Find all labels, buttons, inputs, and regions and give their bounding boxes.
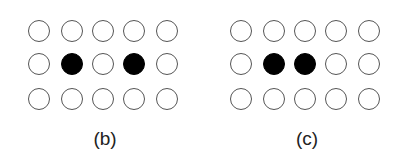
empty-circle bbox=[263, 20, 285, 42]
empty-circle bbox=[61, 20, 83, 42]
empty-circle bbox=[92, 53, 114, 75]
panel-b: (b) bbox=[0, 0, 202, 168]
empty-circle bbox=[325, 20, 347, 42]
empty-circle bbox=[28, 53, 50, 75]
empty-circle bbox=[358, 88, 380, 110]
panel-c: (c) bbox=[202, 0, 404, 168]
panel-label: (b) bbox=[75, 128, 135, 150]
empty-circle bbox=[294, 20, 316, 42]
empty-circle bbox=[358, 20, 380, 42]
empty-circle bbox=[92, 20, 114, 42]
empty-circle bbox=[28, 88, 50, 110]
filled-circle bbox=[61, 53, 83, 75]
empty-circle bbox=[230, 88, 252, 110]
empty-circle bbox=[230, 53, 252, 75]
empty-circle bbox=[28, 20, 50, 42]
empty-circle bbox=[325, 88, 347, 110]
panel-label: (c) bbox=[277, 128, 337, 150]
empty-circle bbox=[156, 20, 178, 42]
filled-circle bbox=[294, 53, 316, 75]
filled-circle bbox=[123, 53, 145, 75]
empty-circle bbox=[123, 20, 145, 42]
empty-circle bbox=[263, 88, 285, 110]
empty-circle bbox=[230, 20, 252, 42]
empty-circle bbox=[294, 88, 316, 110]
empty-circle bbox=[325, 53, 347, 75]
filled-circle bbox=[263, 53, 285, 75]
empty-circle bbox=[123, 88, 145, 110]
empty-circle bbox=[156, 53, 178, 75]
empty-circle bbox=[61, 88, 83, 110]
empty-circle bbox=[92, 88, 114, 110]
empty-circle bbox=[156, 88, 178, 110]
empty-circle bbox=[358, 53, 380, 75]
